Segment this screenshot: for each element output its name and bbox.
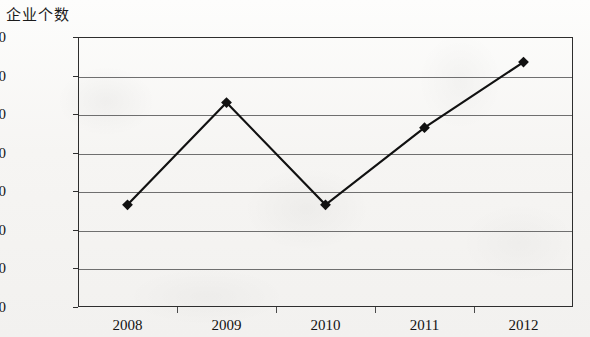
chart-page: 企业个数 19000180001700016000150001400013000… bbox=[0, 0, 590, 337]
data-series-layer bbox=[0, 0, 590, 337]
series-line bbox=[128, 62, 524, 205]
series-markers bbox=[122, 57, 529, 211]
